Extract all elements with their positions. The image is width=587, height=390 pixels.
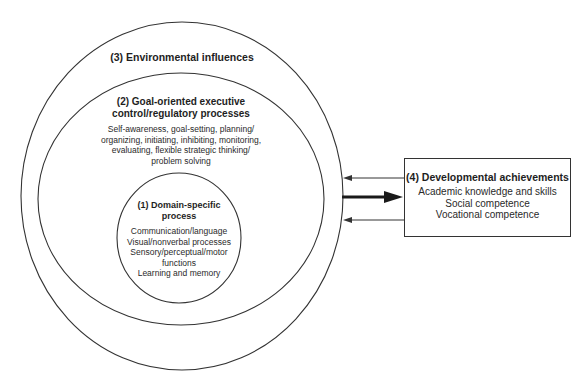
executive-item: evaluating, flexible strategic thinking/: [81, 145, 281, 156]
arrow-feedback-bottom: [343, 217, 404, 223]
executive-title-line2: control/regulatory processes: [81, 108, 281, 120]
arrow-feedback-top: [343, 175, 404, 181]
arrow-main-output: [342, 191, 403, 203]
outer-circle-environmental: [21, 22, 343, 370]
achievement-item: Vocational competence: [405, 209, 570, 221]
domain-item: Visual/nonverbal processes: [119, 237, 239, 248]
executive-processes-label: (2) Goal-oriented executive control/regu…: [81, 96, 281, 166]
executive-item: Self-awareness, goal-setting, planning/: [81, 124, 281, 135]
domain-title-line1: (1) Domain-specific: [119, 200, 239, 211]
domain-title-line2: process: [119, 211, 239, 222]
domain-item: Learning and memory: [119, 268, 239, 279]
domain-specific-label: (1) Domain-specific process Communicatio…: [119, 200, 239, 279]
domain-item: Communication/language: [119, 226, 239, 237]
achievement-item: Academic knowledge and skills: [405, 186, 570, 198]
environmental-influences-title: (3) Environmental influences: [82, 51, 282, 63]
arrowhead-left-icon: [343, 217, 352, 223]
executive-items: Self-awareness, goal-setting, planning/ …: [81, 124, 281, 166]
achievements-content: (4) Developmental achievements Academic …: [405, 171, 570, 221]
executive-item: organizing, initiating, inhibiting, moni…: [81, 135, 281, 146]
executive-item: problem solving: [81, 156, 281, 167]
domain-items: Communication/language Visual/nonverbal …: [119, 226, 239, 279]
domain-item: Sensory/perceptual/motor: [119, 247, 239, 258]
developmental-achievements-box: (4) Developmental achievements Academic …: [404, 158, 571, 237]
domain-item: functions: [119, 258, 239, 269]
achievement-item: Social competence: [405, 198, 570, 210]
arrowhead-left-icon: [343, 175, 352, 181]
achievements-title: (4) Developmental achievements: [405, 171, 570, 183]
arrowhead-right-icon: [384, 191, 403, 203]
achievements-items: Academic knowledge and skills Social com…: [405, 186, 570, 221]
executive-title-line1: (2) Goal-oriented executive: [81, 96, 281, 108]
